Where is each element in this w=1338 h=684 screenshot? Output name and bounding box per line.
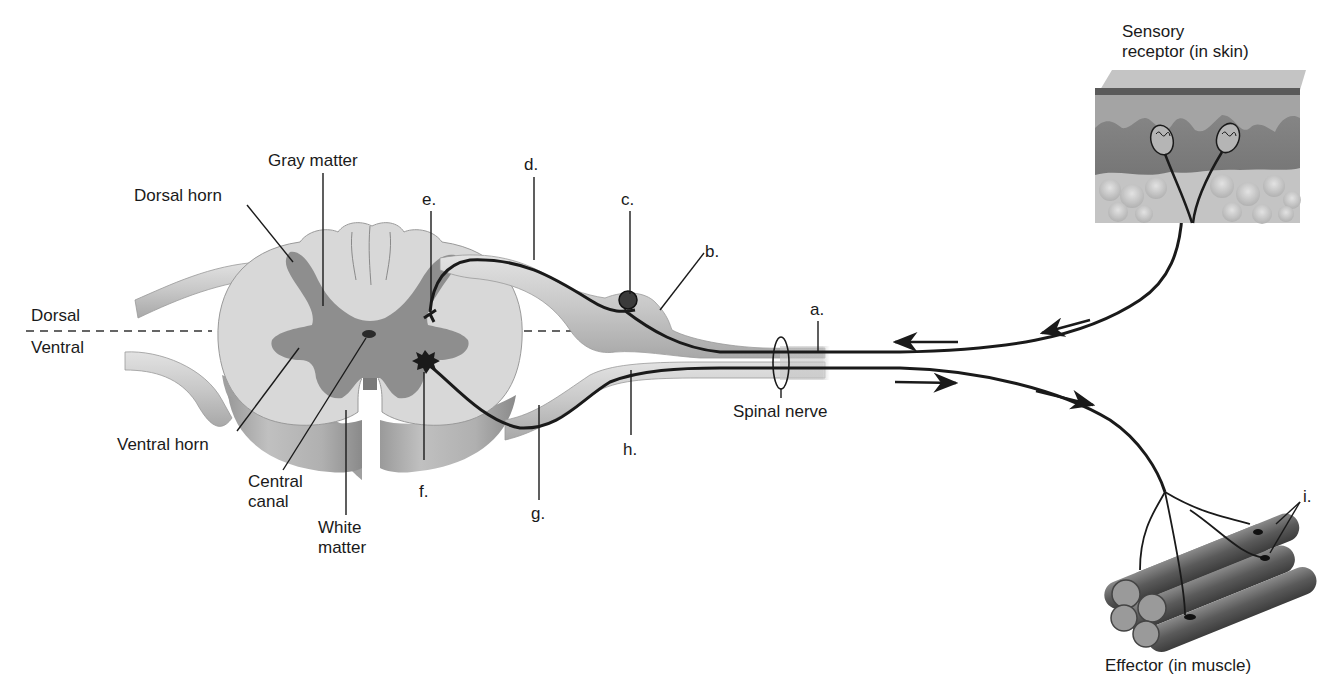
label-effector: Effector (in muscle)	[1105, 656, 1251, 676]
label-a: a.	[810, 300, 824, 320]
label-gray-matter: Gray matter	[268, 151, 358, 171]
ventral-root-right	[505, 362, 825, 440]
label-dorsal: Dorsal	[31, 306, 80, 326]
label-f: f.	[419, 482, 428, 502]
label-i: i.	[1303, 487, 1312, 507]
left-ventral-root	[125, 352, 232, 427]
reflex-arc-diagram	[0, 0, 1338, 684]
sensory-cell-body	[619, 291, 637, 309]
label-d: d.	[524, 155, 538, 175]
label-ventral: Ventral	[31, 338, 84, 358]
label-h: h.	[623, 440, 637, 460]
label-b: b.	[705, 242, 719, 262]
label-c: c.	[621, 190, 634, 210]
label-dorsal-horn: Dorsal horn	[134, 186, 222, 206]
label-central-canal: Central canal	[248, 472, 303, 512]
central-canal	[362, 330, 376, 338]
label-e: e.	[422, 190, 436, 210]
label-spinal-nerve: Spinal nerve	[733, 402, 828, 422]
label-sensory-receptor: Sensory receptor (in skin)	[1122, 22, 1249, 62]
skin-block	[1095, 70, 1306, 224]
motor-neuron	[425, 362, 1165, 492]
label-ventral-horn: Ventral horn	[117, 435, 209, 455]
label-g: g.	[531, 504, 545, 524]
label-white-matter: White matter	[318, 518, 366, 558]
